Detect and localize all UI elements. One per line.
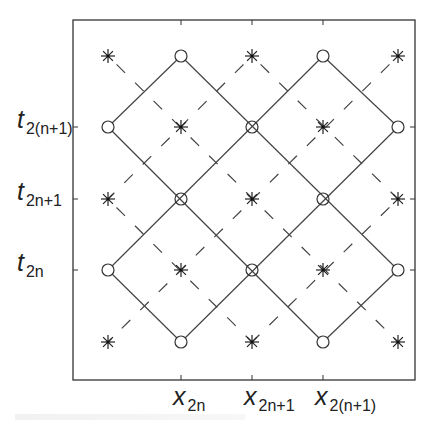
staggered-grid-diagram: [0, 0, 448, 428]
circle-marker-icon: [102, 264, 114, 276]
label-main: x: [173, 382, 186, 410]
circle-marker-icon: [317, 50, 329, 62]
asterisk-center: [396, 54, 399, 57]
x-axis-label: x2n+1: [244, 382, 295, 411]
solid-characteristic-line: [323, 270, 398, 342]
label-main: x: [315, 382, 328, 410]
asterisk-center: [321, 125, 324, 128]
asterisk-center: [106, 197, 109, 200]
x-axis-label: x2(n+1): [315, 382, 376, 411]
label-main: t: [17, 248, 24, 276]
circle-marker-icon: [175, 50, 187, 62]
asterisk-center: [179, 125, 182, 128]
label-sub: 2n: [26, 263, 44, 280]
label-main: x: [244, 382, 257, 410]
y-axis-label: t2n+1: [17, 177, 62, 206]
asterisk-center: [250, 197, 253, 200]
circle-marker-icon: [392, 264, 404, 276]
asterisk-center: [396, 197, 399, 200]
asterisk-center: [321, 268, 324, 271]
label-sub: 2(n+1): [330, 397, 377, 414]
asterisk-center: [106, 340, 109, 343]
x-axis-label: x2n: [173, 382, 205, 411]
circle-cross-marker-icon: [246, 264, 258, 276]
asterisk-center: [106, 54, 109, 57]
label-sub: 2(n+1): [26, 120, 73, 137]
asterisk-center: [396, 340, 399, 343]
label-sub: 2n+1: [26, 192, 62, 209]
y-axis-label: t2(n+1): [17, 105, 73, 134]
asterisk-center: [179, 268, 182, 271]
label-main: t: [17, 177, 24, 205]
circle-cross-marker-icon: [175, 193, 187, 205]
y-axis-label: t2n: [17, 248, 44, 277]
label-sub: 2n+1: [259, 397, 295, 414]
circle-marker-icon: [392, 121, 404, 133]
circle-marker-icon: [102, 121, 114, 133]
circle-cross-marker-icon: [317, 193, 329, 205]
circle-marker-icon: [317, 336, 329, 348]
asterisk-center: [250, 340, 253, 343]
label-main: t: [17, 105, 24, 133]
asterisk-center: [250, 54, 253, 57]
circle-marker-icon: [175, 336, 187, 348]
label-sub: 2n: [188, 397, 206, 414]
figure-caption-cutoff: [15, 414, 245, 420]
